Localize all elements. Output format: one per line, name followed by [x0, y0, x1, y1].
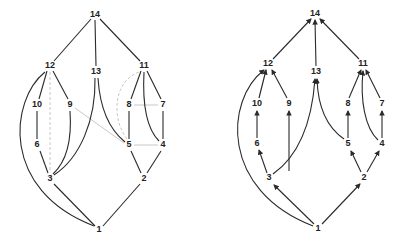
node-7: 7: [379, 98, 384, 108]
right-node-labels: 14 12 13 11 10 9 8 7 6 5 4 3 2 1: [252, 8, 385, 233]
node-5: 5: [126, 139, 131, 149]
node-1: 1: [96, 224, 101, 234]
node-9: 9: [67, 99, 72, 109]
arrow-2-4: [367, 151, 379, 172]
edge-1-2: [103, 184, 140, 226]
node-14: 14: [90, 9, 100, 19]
edge-13-14: [95, 20, 96, 66]
node-12: 12: [263, 58, 273, 68]
node-3: 3: [266, 172, 271, 182]
node-5: 5: [345, 138, 350, 148]
arrow-13-14: [315, 20, 316, 66]
node-2: 2: [141, 173, 146, 183]
node-8: 8: [345, 98, 350, 108]
edge-1-3: [54, 184, 95, 226]
diagram-canvas: 14 12 13 11 10 9 8 7 6 5 4 3 2 1: [0, 0, 402, 244]
arrow-1-2: [322, 184, 360, 224]
node-2: 2: [361, 172, 366, 182]
node-14: 14: [310, 8, 320, 18]
node-1: 1: [315, 223, 320, 233]
arrow-11-14: [320, 19, 359, 59]
node-6: 6: [34, 139, 39, 149]
node-12: 12: [45, 60, 55, 70]
edge-11-14: [100, 19, 140, 61]
arrow-5-13: [317, 79, 344, 139]
node-10: 10: [32, 99, 42, 109]
arrow-4-11: [362, 71, 378, 140]
edge-3-13: [54, 78, 95, 175]
edge-7-11: [147, 71, 161, 99]
edge-12-14: [54, 19, 91, 61]
arrow-8-11: [349, 70, 361, 98]
arrow-10-12: [259, 70, 266, 98]
node-6: 6: [254, 138, 259, 148]
edge-5-13: [98, 78, 125, 142]
node-4: 4: [160, 139, 165, 149]
node-9: 9: [286, 98, 291, 108]
edge-1-12: [20, 72, 94, 226]
edge-2-4: [147, 151, 161, 173]
arrow-1-12: [238, 70, 313, 226]
node-11: 11: [139, 60, 149, 70]
node-4: 4: [379, 138, 384, 148]
edge-9-12: [53, 71, 68, 99]
edge-10-12: [39, 71, 47, 99]
node-10: 10: [252, 98, 262, 108]
arrow-12-14: [273, 19, 311, 59]
edge-4-11: [144, 72, 159, 141]
gray-edge-9-5: [75, 108, 124, 143]
node-11: 11: [358, 58, 368, 68]
arrow-7-11: [366, 70, 380, 98]
node-3: 3: [47, 173, 52, 183]
node-13: 13: [311, 66, 321, 76]
arrow-9-12: [272, 70, 287, 98]
edge-3-6: [40, 151, 48, 173]
right-graph: 14 12 13 11 10 9 8 7 6 5 4 3 2 1: [238, 8, 385, 233]
arrow-3-6: [259, 150, 267, 173]
left-graph: 14 12 13 11 10 9 8 7 6 5 4 3 2 1: [20, 9, 166, 234]
node-7: 7: [160, 99, 165, 109]
node-8: 8: [126, 99, 131, 109]
edge-2-5: [131, 151, 141, 173]
node-13: 13: [91, 66, 101, 76]
edge-3-9: [53, 111, 70, 174]
arrow-3-13: [273, 79, 315, 174]
arrow-2-5: [351, 151, 361, 172]
arrow-1-3: [274, 185, 314, 224]
